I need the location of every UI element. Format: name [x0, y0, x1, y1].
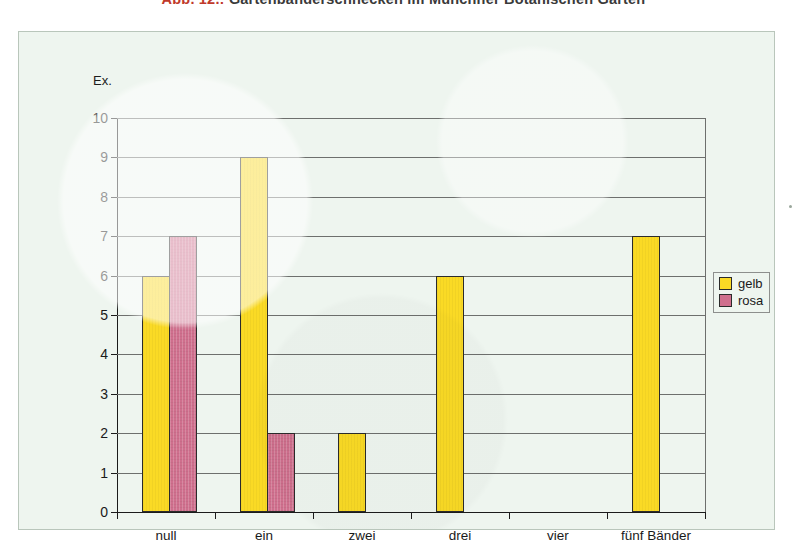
plot-right-border	[705, 118, 706, 512]
y-tick-mark	[111, 157, 117, 158]
gridline	[117, 473, 705, 474]
scan-artifact-speck	[789, 205, 792, 208]
x-tick-label-null: null	[155, 528, 176, 543]
y-tick-label: 9	[100, 149, 108, 165]
y-tick-mark	[111, 276, 117, 277]
legend-swatch-rosa	[719, 294, 732, 307]
y-tick-mark	[111, 354, 117, 355]
x-tick-mark	[509, 512, 510, 519]
legend-label-gelb: gelb	[738, 277, 763, 290]
x-tick-mark	[313, 512, 314, 519]
y-tick-label: 1	[100, 465, 108, 481]
gridline	[117, 197, 705, 198]
y-tick-mark	[111, 118, 117, 119]
y-tick-label: 7	[100, 228, 108, 244]
gridline	[117, 276, 705, 277]
plot-area: 012345678910 nulleinzweidreivierfünf Bän…	[117, 118, 705, 512]
y-tick-label: 4	[100, 346, 108, 362]
x-tick-mark	[117, 512, 118, 519]
y-tick-mark	[111, 433, 117, 434]
x-tick-mark	[411, 512, 412, 519]
legend-item-rosa: rosa	[719, 294, 763, 307]
figure-number: Abb. 12.:	[162, 0, 225, 7]
y-tick-mark	[111, 315, 117, 316]
y-tick-label: 8	[100, 189, 108, 205]
gridline	[117, 157, 705, 158]
chart-frame: Ex. 012345678910 nulleinzweidreivierfünf…	[18, 31, 775, 530]
bar-gelb-zwei	[338, 433, 366, 512]
gridline	[117, 118, 705, 119]
x-tick-mark	[215, 512, 216, 519]
gridline	[117, 433, 705, 434]
figure-title-text: Gartenbänderschnecken im Münchner Botani…	[229, 0, 646, 7]
x-tick-mark	[607, 512, 608, 519]
y-axis-unit-label: Ex.	[93, 73, 112, 88]
x-tick-label-fünf-bänder: fünf Bänder	[621, 528, 691, 543]
gridline	[117, 236, 705, 237]
x-tick-mark	[705, 512, 706, 519]
bar-gelb-drei	[436, 276, 464, 512]
bar-rosa-ein	[267, 433, 295, 512]
legend-item-gelb: gelb	[719, 277, 763, 290]
gridline	[117, 354, 705, 355]
bar-gelb-fünf-bänder	[632, 236, 660, 512]
x-tick-label-zwei: zwei	[348, 528, 375, 543]
legend-swatch-gelb	[719, 277, 732, 290]
y-tick-label: 3	[100, 386, 108, 402]
y-tick-mark	[111, 473, 117, 474]
y-tick-label: 2	[100, 425, 108, 441]
chart-legend: gelbrosa	[713, 272, 770, 313]
gridline	[117, 394, 705, 395]
x-tick-label-drei: drei	[449, 528, 472, 543]
bar-rosa-null	[169, 236, 197, 512]
bar-gelb-null	[142, 276, 170, 512]
y-tick-label: 5	[100, 307, 108, 323]
x-tick-label-vier: vier	[547, 528, 569, 543]
legend-label-rosa: rosa	[738, 294, 763, 307]
y-tick-mark	[111, 394, 117, 395]
bar-gelb-ein	[240, 157, 268, 512]
gridline	[117, 315, 705, 316]
figure-title: Abb. 12.: Gartenbänderschnecken im Münch…	[0, 0, 807, 9]
y-tick-mark	[111, 197, 117, 198]
y-tick-label: 10	[92, 110, 108, 126]
y-tick-mark	[111, 236, 117, 237]
y-tick-label: 0	[100, 504, 108, 520]
y-tick-label: 6	[100, 268, 108, 284]
x-tick-label-ein: ein	[255, 528, 273, 543]
